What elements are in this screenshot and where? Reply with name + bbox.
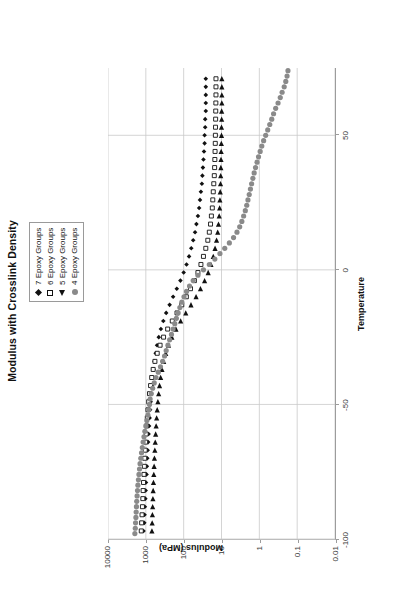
legend-label: 5 Epoxy Groups	[57, 228, 68, 285]
x-tick-mark	[336, 134, 339, 135]
filled-diamond-icon	[34, 288, 43, 297]
y-tick-mark	[336, 540, 337, 543]
figure: Modulus with Crosslink Density 7 Epoxy G…	[0, 0, 396, 602]
series-4	[132, 68, 290, 536]
x-tick-mark	[336, 539, 339, 540]
x-tick-mark	[336, 404, 339, 405]
y-tick-mark	[260, 540, 261, 543]
series-1	[141, 76, 208, 533]
open-square-icon	[46, 288, 55, 297]
y-tick-label: 0.1	[294, 546, 302, 580]
x-tick-mark	[336, 269, 339, 270]
filled-triangle-icon	[58, 288, 67, 297]
x-tick-label: -50	[342, 390, 350, 420]
legend-label: 7 Epoxy Groups	[33, 228, 44, 285]
y-tick-label: 0.01	[332, 546, 340, 580]
legend-label: 6 Epoxy Groups	[45, 228, 56, 285]
y-tick-label: 10000	[104, 546, 112, 580]
y-tick-label: 1	[256, 546, 264, 580]
y-tick-mark	[108, 540, 109, 543]
legend: 7 Epoxy Groups 6 Epoxy Groups 5 Epoxy Gr…	[29, 222, 84, 302]
x-tick-label: 50	[342, 120, 350, 150]
legend-label: 4 Epoxy Groups	[69, 228, 80, 285]
x-tick-label: 0	[342, 255, 350, 285]
legend-item-4-epoxy-groups[interactable]: 4 Epoxy Groups	[69, 228, 80, 297]
plot-area	[108, 68, 336, 540]
legend-item-5-epoxy-groups[interactable]: 5 Epoxy Groups	[57, 228, 68, 297]
series-2	[139, 77, 218, 533]
x-tick-label: -100	[342, 525, 350, 555]
plot-canvas	[108, 68, 335, 539]
chart-page: Modulus with Crosslink Density 7 Epoxy G…	[0, 0, 396, 602]
x-axis-title: Temperature	[356, 68, 366, 540]
filled-circle-icon	[70, 288, 79, 297]
rotated-figure-wrapper: Modulus with Crosslink Density 7 Epoxy G…	[0, 0, 396, 602]
legend-item-6-epoxy-groups[interactable]: 6 Epoxy Groups	[45, 228, 56, 297]
y-tick-mark	[298, 540, 299, 543]
legend-item-7-epoxy-groups[interactable]: 7 Epoxy Groups	[33, 228, 44, 297]
chart-title: Modulus with Crosslink Density	[6, 0, 18, 602]
y-axis-title: Modulus (MPa)	[131, 543, 251, 553]
